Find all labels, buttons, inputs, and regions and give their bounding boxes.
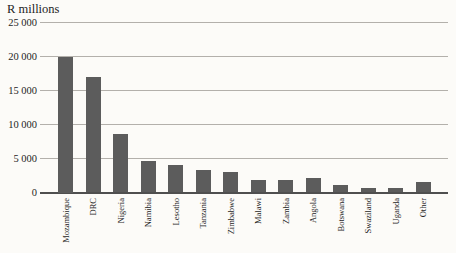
chart-unit-label: R millions <box>7 2 59 17</box>
x-axis-line <box>40 192 448 194</box>
x-tick-label: Uganda <box>389 198 403 253</box>
gridline <box>40 158 448 159</box>
bar-other <box>416 182 431 193</box>
bar-botswana <box>333 185 348 192</box>
gridline <box>40 124 448 125</box>
y-tick-label: 20 000 <box>0 51 37 63</box>
bar-zimbabwe <box>223 172 238 192</box>
y-tick-label: 15 000 <box>0 85 37 97</box>
y-tick-label: 10 000 <box>0 119 37 131</box>
y-tick-label: 0 <box>0 187 37 199</box>
x-tick-label: Namibia <box>141 198 155 253</box>
bar-drc <box>86 77 101 193</box>
bar-angola <box>306 178 321 192</box>
x-tick-label: DRC <box>86 198 100 253</box>
bar-uganda <box>388 188 403 193</box>
gridline <box>40 90 448 91</box>
bar-lesotho <box>168 165 183 192</box>
bar-namibia <box>141 161 156 193</box>
bar-nigeria <box>113 134 128 192</box>
x-tick-label: Malawi <box>251 198 265 253</box>
bar-mozambique <box>58 57 73 193</box>
y-tick-label: 5 000 <box>0 153 37 165</box>
gridline <box>40 22 448 23</box>
bar-tanzania <box>196 170 211 192</box>
bar-malawi <box>251 180 266 192</box>
bar-chart: R millions 05 00010 00015 00020 00025 00… <box>0 0 456 253</box>
x-tick-label: Other <box>416 198 430 253</box>
x-tick-label: Swaziland <box>361 198 375 253</box>
y-tick-label: 25 000 <box>0 17 37 29</box>
x-tick-label: Mozambique <box>59 198 73 253</box>
gridline <box>40 56 448 57</box>
bar-zambia <box>278 180 293 193</box>
x-tick-label: Nigeria <box>114 198 128 253</box>
x-tick-label: Tanzania <box>196 198 210 253</box>
x-tick-label: Zambia <box>279 198 293 253</box>
x-tick-label: Botswana <box>334 198 348 253</box>
x-tick-label: Lesotho <box>169 198 183 253</box>
bar-swaziland <box>361 188 376 192</box>
x-tick-label: Angola <box>306 198 320 253</box>
x-tick-label: Zimbabwe <box>224 198 238 253</box>
